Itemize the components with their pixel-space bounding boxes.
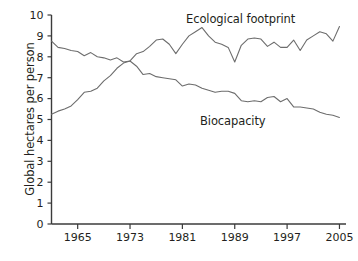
y-tick-label: 6 — [37, 92, 44, 105]
y-tick-label: 10 — [30, 9, 44, 22]
line-chart-canvas: 012345678910 196519731981198919972005 — [0, 0, 358, 261]
x-tick-label: 1997 — [273, 231, 301, 244]
y-tick-label: 3 — [37, 155, 44, 168]
y-axis-label: Global hectares per person — [23, 21, 37, 217]
series-line-biocapacity — [52, 41, 340, 117]
series-label-biocapacity: Biocapacity — [200, 114, 266, 128]
chart-figure: 012345678910 196519731981198919972005 Gl… — [0, 0, 358, 261]
y-tick-label: 4 — [37, 134, 44, 147]
chart-series-lines — [52, 27, 340, 118]
x-tick-label: 1973 — [116, 231, 144, 244]
x-tick-label: 2005 — [325, 231, 353, 244]
series-label-ecological-footprint: Ecological footprint — [186, 12, 295, 26]
y-tick-label: 5 — [37, 113, 44, 126]
y-tick-label: 0 — [37, 218, 44, 231]
x-tick-label: 1965 — [64, 231, 92, 244]
x-tick-label: 1989 — [221, 231, 249, 244]
x-tick-label: 1981 — [168, 231, 196, 244]
y-tick-label: 2 — [37, 176, 44, 189]
y-tick-label: 7 — [37, 72, 44, 85]
y-tick-label: 9 — [37, 30, 44, 43]
y-tick-label: 8 — [37, 51, 44, 64]
series-line-ecological-footprint — [52, 27, 340, 115]
x-axis-ticks: 196519731981198919972005 — [64, 224, 354, 244]
y-tick-label: 1 — [37, 197, 44, 210]
